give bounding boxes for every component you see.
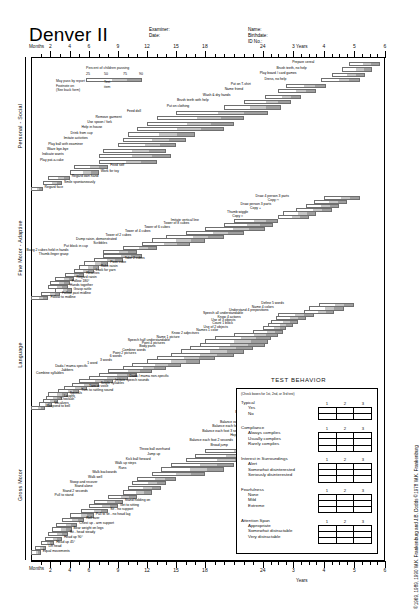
milestone-label: Help in house — [0, 126, 104, 130]
milestone-bar — [321, 78, 359, 82]
grid-column-1: 1 — [326, 401, 328, 406]
milestone-label: Throw ball overhand — [0, 448, 172, 452]
grid-column-3: 3 — [362, 457, 364, 462]
grid-column-1: 1 — [326, 519, 328, 524]
axis-tick-6-months: 6 — [88, 567, 91, 573]
milestone-bar — [52, 527, 71, 531]
test-behavior-title: TEST BEHAVIOR — [271, 377, 326, 383]
grid-column-2: 2 — [344, 401, 346, 406]
milestone-label: Wash & dry hands — [0, 94, 232, 98]
grid-column-3: 3 — [362, 519, 364, 524]
axis-tick-12-months: 12 — [144, 567, 150, 573]
milestone-label: Turn to rattling sound — [81, 389, 113, 393]
milestone-bar — [31, 406, 45, 410]
milestone-bar — [157, 116, 244, 120]
axis-tick-15-months: 15 — [173, 567, 179, 573]
milestone-label: Play ball with examiner — [0, 143, 85, 147]
milestone-label: Remove garment — [0, 116, 124, 120]
milestone-bar — [31, 550, 41, 554]
milestone-bar — [278, 215, 309, 219]
milestone-bar — [137, 477, 176, 481]
axis-tick-6-years: 6 — [384, 43, 387, 49]
years-label-bottom: Years — [296, 578, 308, 583]
milestone-label: Play board / card games — [0, 72, 299, 76]
behavior-checkbox-cell[interactable] — [354, 445, 372, 451]
axis-tick-4-months: 4 — [68, 567, 71, 573]
months-label-top: Months — [29, 44, 44, 49]
test-behavior-grid[interactable]: 123 — [318, 407, 372, 420]
grid-column-3: 3 — [362, 426, 364, 431]
milestone-label: Combine syllables — [0, 372, 66, 376]
grid-column-2: 2 — [344, 426, 346, 431]
milestone-bar — [128, 132, 196, 136]
milestone-label: Walk up steps — [0, 462, 138, 466]
behavior-checkbox-cell[interactable] — [336, 537, 354, 543]
grid-column-2: 2 — [344, 519, 346, 524]
axis-tick-9-months: 9 — [117, 43, 120, 49]
milestone-bar — [31, 296, 48, 300]
behavior-checkbox-cell[interactable] — [354, 414, 372, 420]
axis-tick-5-years: 5 — [353, 567, 356, 573]
grid-column-1: 1 — [326, 488, 328, 493]
behavior-checkbox-cell[interactable] — [336, 445, 354, 451]
section-option: Somewhat distractable — [248, 528, 292, 534]
milestone-label: Imitate activities — [0, 137, 90, 141]
axis-tick-6-years: 6 — [384, 567, 387, 573]
milestone-label: Prepare cereal — [0, 61, 316, 65]
milestone-bar — [286, 84, 327, 88]
test-behavior-note: (Check boxes for 1st, 2nd, or 3rd test) — [241, 392, 295, 396]
test-behavior-grid[interactable]: 123 — [318, 463, 372, 483]
axis-tick-15-months: 15 — [173, 43, 179, 49]
milestone-label: Brush teeth, no help — [0, 67, 309, 71]
behavior-checkbox-cell[interactable] — [319, 507, 337, 513]
test-behavior-grid[interactable]: 123 — [318, 525, 372, 545]
grid-column-2: 2 — [344, 488, 346, 493]
examiner-block: Examiner: Date: — [149, 27, 170, 39]
test-behavior-panel: TEST BEHAVIOR (Check boxes for 1st, 2nd,… — [236, 388, 378, 554]
milestone-label: Respond to bell — [47, 405, 71, 409]
test-behavior-grid[interactable]: 123 — [318, 432, 372, 452]
behavior-checkbox-cell[interactable] — [319, 445, 337, 451]
axis-tick-3-years: 3 — [292, 567, 295, 573]
milestone-label: Feed doll — [0, 110, 143, 114]
milestone-bar — [118, 143, 176, 147]
axis-tick-6-months: 6 — [88, 43, 91, 49]
behavior-checkbox-cell[interactable] — [336, 507, 354, 513]
milestone-bar — [349, 62, 380, 66]
milestone-bar — [278, 89, 316, 93]
axis-tick-2-months: 2 — [49, 43, 52, 49]
axis-tick-24-months: 24 — [260, 567, 266, 573]
axis-tick-4-months: 4 — [68, 43, 71, 49]
milestone-label: Pull to stand — [0, 494, 75, 498]
axis-tick-2-months: 2 — [49, 567, 52, 573]
behavior-checkbox-cell[interactable] — [319, 476, 337, 482]
milestone-label: Thumb-finger grasp — [0, 253, 70, 257]
behavior-checkbox-cell[interactable] — [319, 537, 337, 543]
milestone-label: Indicate wants — [0, 153, 66, 157]
behavior-checkbox-cell[interactable] — [336, 476, 354, 482]
section-option: No — [248, 411, 255, 417]
behavior-checkbox-cell[interactable] — [354, 476, 372, 482]
milestone-bar — [99, 154, 171, 158]
milestone-label: Pull to sit - no head lag — [96, 513, 131, 517]
milestone-bar — [342, 67, 373, 71]
grid-column-1: 1 — [326, 426, 328, 431]
grid-column-2: 2 — [344, 457, 346, 462]
test-behavior-section: TypicalYesNo — [241, 400, 255, 416]
milestone-label: Take 2 cubes — [125, 257, 145, 261]
behavior-checkbox-cell[interactable] — [336, 414, 354, 420]
behavior-checkbox-cell[interactable] — [354, 507, 372, 513]
milestone-label: Feed self — [110, 164, 124, 168]
milestone-label: Name friend — [0, 88, 245, 92]
grid-column-3: 3 — [362, 401, 364, 406]
milestone-bar — [94, 500, 123, 504]
section-option: Always complies — [248, 430, 281, 436]
test-behavior-grid[interactable]: 123 — [318, 494, 372, 514]
milestone-bar — [265, 95, 301, 99]
axis-tick-4-years: 4 — [323, 567, 326, 573]
test-behavior-section: FearfulnessNoneMildExtreme — [241, 487, 264, 509]
milestone-bar — [171, 463, 234, 467]
behavior-checkbox-cell[interactable] — [319, 414, 337, 420]
behavior-checkbox-cell[interactable] — [354, 537, 372, 543]
